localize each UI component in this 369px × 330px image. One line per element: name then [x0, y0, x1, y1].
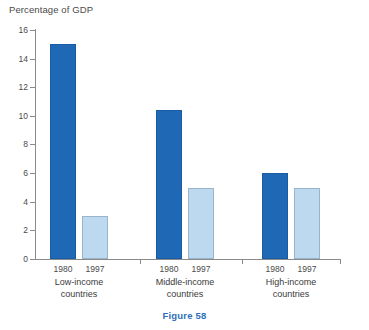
bar-high-income-1997 — [294, 188, 320, 260]
x-axis-group-separator-3 — [340, 259, 341, 264]
y-tick-label-14: 14 — [10, 54, 28, 64]
y-tick-0 — [30, 259, 36, 260]
y-tick-label-4: 4 — [10, 197, 28, 207]
figure-caption: Figure 58 — [0, 310, 369, 321]
x-group-label-low-income-line1: Low-income — [55, 277, 104, 287]
y-tick-12 — [30, 87, 36, 88]
x-group-label-low-income: Low-income countries — [19, 277, 139, 300]
bar-high-income-1980 — [262, 173, 288, 259]
y-tick-14 — [30, 59, 36, 60]
x-label-low-income-1997: 1997 — [77, 264, 113, 274]
y-tick-label-6: 6 — [10, 168, 28, 178]
y-tick-label-10: 10 — [10, 111, 28, 121]
x-label-middle-income-1980: 1980 — [151, 264, 187, 274]
y-tick-label-2: 2 — [10, 225, 28, 235]
figure-container: Percentage of GDP 16 14 12 10 8 6 4 2 0 — [0, 0, 369, 330]
x-label-low-income-1980: 1980 — [45, 264, 81, 274]
x-group-label-middle-income-line2: countries — [125, 289, 245, 301]
bar-middle-income-1997 — [188, 188, 214, 260]
bar-low-income-1997 — [82, 216, 108, 259]
y-tick-2 — [30, 230, 36, 231]
x-label-high-income-1997: 1997 — [289, 264, 325, 274]
x-group-label-high-income-line1: High-income — [266, 277, 317, 287]
x-group-label-middle-income: Middle-income countries — [125, 277, 245, 300]
x-group-label-high-income-line2: countries — [231, 289, 351, 301]
x-axis-group-separator-1 — [140, 259, 141, 264]
y-tick-10 — [30, 116, 36, 117]
bar-middle-income-1980 — [156, 110, 182, 259]
x-label-high-income-1980: 1980 — [257, 264, 293, 274]
plot-area: 16 14 12 10 8 6 4 2 0 1980 1997 1 — [0, 0, 369, 330]
x-group-label-high-income: High-income countries — [231, 277, 351, 300]
x-group-label-low-income-line2: countries — [19, 289, 139, 301]
bar-low-income-1980 — [50, 44, 76, 259]
x-axis-group-separator-2 — [242, 259, 243, 264]
x-axis-line — [35, 259, 341, 260]
y-tick-6 — [30, 173, 36, 174]
y-tick-label-0: 0 — [10, 254, 28, 264]
x-label-middle-income-1997: 1997 — [183, 264, 219, 274]
y-tick-8 — [30, 144, 36, 145]
y-tick-label-12: 12 — [10, 82, 28, 92]
y-tick-label-8: 8 — [10, 139, 28, 149]
y-tick-4 — [30, 202, 36, 203]
y-tick-label-16: 16 — [10, 25, 28, 35]
y-tick-16 — [30, 30, 36, 31]
x-group-label-middle-income-line1: Middle-income — [156, 277, 215, 287]
